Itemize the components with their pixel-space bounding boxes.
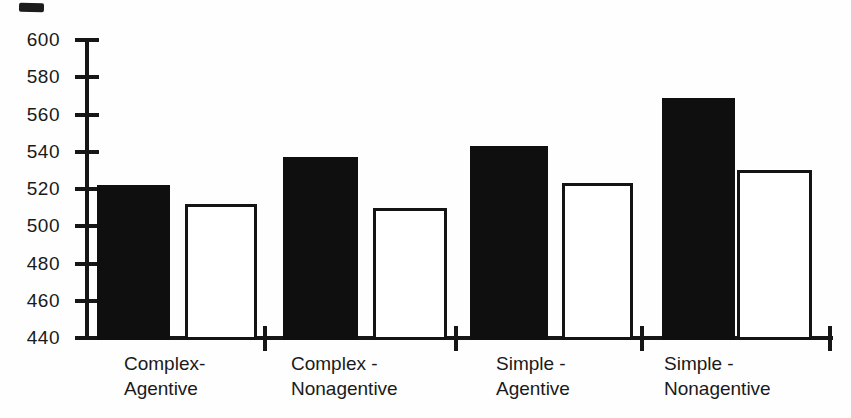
white-bar-simple-nonagentive — [737, 170, 812, 340]
y-tick-mark — [75, 336, 99, 340]
black-bar-complex-agentive — [97, 185, 170, 340]
scan-artifact-mark — [19, 3, 44, 12]
black-bar-complex-nonagentive — [283, 157, 358, 340]
x-tick-mark — [454, 326, 458, 351]
bar-chart-figure: 600580560540520500480460440 Complex-Agen… — [0, 0, 851, 418]
y-tick-label: 460 — [10, 290, 60, 312]
y-tick-label: 440 — [10, 327, 60, 349]
y-tick-label: 500 — [10, 215, 60, 237]
category-label-line1: Simple - — [496, 351, 570, 376]
white-bar-complex-nonagentive — [373, 208, 447, 340]
category-label-complex-nonagentive: Complex -Nonagentive — [291, 351, 398, 401]
y-tick-mark — [75, 262, 99, 266]
x-tick-mark — [263, 326, 267, 351]
category-label-line2: Agentive — [124, 376, 205, 401]
y-tick-mark — [75, 113, 99, 117]
category-label-complex-agentive: Complex-Agentive — [124, 351, 205, 401]
white-bar-simple-agentive — [562, 183, 633, 340]
y-tick-label: 480 — [10, 253, 60, 275]
y-tick-mark — [75, 75, 99, 79]
x-tick-mark — [828, 326, 832, 351]
y-tick-label: 600 — [10, 29, 60, 51]
category-label-line2: Agentive — [496, 376, 570, 401]
category-label-simple-agentive: Simple -Agentive — [496, 351, 570, 401]
white-bar-complex-agentive — [185, 204, 257, 340]
category-label-line2: Nonagentive — [291, 376, 398, 401]
category-label-line1: Complex- — [124, 351, 205, 376]
category-label-line1: Simple - — [664, 351, 771, 376]
y-tick-mark — [75, 150, 99, 154]
y-tick-label: 520 — [10, 178, 60, 200]
category-label-simple-nonagentive: Simple -Nonagentive — [664, 351, 771, 401]
y-tick-label: 580 — [10, 66, 60, 88]
y-tick-mark — [75, 299, 99, 303]
x-tick-mark — [640, 326, 644, 351]
y-tick-label: 540 — [10, 141, 60, 163]
black-bar-simple-agentive — [470, 146, 548, 340]
y-tick-mark — [75, 38, 99, 42]
y-tick-label: 560 — [10, 104, 60, 126]
category-label-line1: Complex - — [291, 351, 398, 376]
category-label-line2: Nonagentive — [664, 376, 771, 401]
y-tick-mark — [75, 224, 99, 228]
black-bar-simple-nonagentive — [662, 98, 735, 340]
y-tick-mark — [75, 187, 99, 191]
